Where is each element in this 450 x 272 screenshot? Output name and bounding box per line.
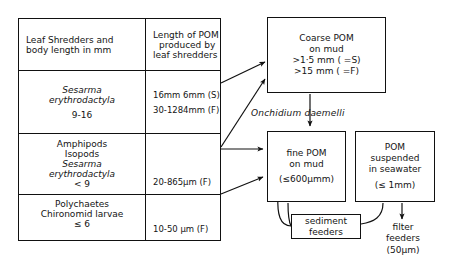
organism-name-line: Sesarma xyxy=(23,159,141,169)
leaf-shredder-table: Leaf Shredders and body length in mm Len… xyxy=(18,18,221,241)
suspended-pom-threshold: (≤ 1mm) xyxy=(375,180,416,191)
table-cell-pom-size: 10-50 µm (F) xyxy=(146,195,220,240)
fine-pom-line-2: on mud xyxy=(289,159,323,170)
table-cell-organisms: Sesarma erythrodactyla 9-16 xyxy=(19,71,146,133)
arrow-polychaetes-to-fine-pom xyxy=(221,177,263,194)
filter-feeders-mesh-size: (50µm) xyxy=(375,245,431,256)
arrow-sesarma-to-coarse-pom xyxy=(221,62,265,83)
table-row: Sesarma erythrodactyla 9-16 16mm 6mm (S)… xyxy=(19,71,220,134)
coarse-pom-threshold-f: >15 mm ( =F) xyxy=(294,66,359,77)
organism-name-line: Amphipods xyxy=(23,139,141,149)
organism-name-line: Isopods xyxy=(23,149,141,159)
pom-size-line: 30-1284mm (F) xyxy=(153,105,220,115)
coarse-pom-line-2: on mud xyxy=(309,44,343,55)
filter-feeders-line-2: feeders xyxy=(375,233,431,244)
table-cell-organisms: Polychaetes Chironomid larvae ≤ 6 xyxy=(19,195,146,240)
sediment-feeders-box: sediment feeders xyxy=(291,214,361,239)
coarse-pom-line-1: Coarse POM xyxy=(299,33,353,44)
table-row: Amphipods Isopods Sesarma erythrodactyla… xyxy=(19,134,220,195)
table-header-pom-line-2: produced by xyxy=(153,40,220,50)
fine-pom-line-1: fine POM xyxy=(286,148,326,159)
organism-name-line: erythrodactyla xyxy=(23,95,141,105)
organism-name-line: Sesarma xyxy=(23,85,141,95)
table-cell-pom-size: 16mm 6mm (S) 30-1284mm (F) xyxy=(146,71,220,133)
sediment-feeders-line-1: sediment xyxy=(305,216,347,227)
table-cell-organisms: Amphipods Isopods Sesarma erythrodactyla… xyxy=(19,134,146,194)
pom-size-line: 16mm 6mm (S) xyxy=(153,90,220,100)
table-header-pom-line-1: Length of POM xyxy=(153,30,220,40)
organism-name-line: erythrodactyla xyxy=(23,169,141,179)
fine-pom-box: fine POM on mud (≤600µmm) xyxy=(267,131,346,202)
suspended-pom-line-3: in seawater xyxy=(369,164,421,175)
onchidium-daemelli-label: Onchidium daemelli xyxy=(251,108,345,119)
organism-size-line: < 9 xyxy=(23,179,141,189)
coarse-pom-threshold-s: >1·5 mm ( =S) xyxy=(292,55,360,66)
curve-suspended-pom-to-sediment-feeders xyxy=(361,203,383,224)
pom-size-line: 10-50 µm (F) xyxy=(153,224,220,234)
organism-name-line: Polychaetes xyxy=(23,199,141,209)
pom-size-line: 20-865µm (F) xyxy=(153,177,220,187)
diagram-canvas: Leaf Shredders and body length in mm Len… xyxy=(0,0,450,272)
table-header-pom-line-3: leaf shredders xyxy=(153,50,220,60)
table-header-cell-pom: Length of POM produced by leaf shredders xyxy=(146,19,220,70)
table-header-organisms-line-1: Leaf Shredders and xyxy=(26,35,114,45)
suspended-pom-line-2: suspended xyxy=(371,153,420,164)
filter-feeders-label: filter feeders (50µm) xyxy=(375,222,431,256)
sediment-feeders-line-2: feeders xyxy=(309,227,343,238)
organism-size-line: ≤ 6 xyxy=(23,219,141,229)
suspended-pom-box: POM suspended in seawater (≤ 1mm) xyxy=(355,131,435,202)
table-row: Polychaetes Chironomid larvae ≤ 6 10-50 … xyxy=(19,195,220,240)
table-header-organisms-line-2: body length in mm xyxy=(26,45,111,55)
filter-feeders-line-1: filter xyxy=(375,222,431,233)
table-header-row: Leaf Shredders and body length in mm Len… xyxy=(19,19,220,71)
organism-size-line: 9-16 xyxy=(23,110,141,120)
coarse-pom-box: Coarse POM on mud >1·5 mm ( =S) >15 mm (… xyxy=(267,17,386,93)
suspended-pom-line-1: POM xyxy=(385,142,405,153)
organism-name-line: Chironomid larvae xyxy=(23,209,141,219)
table-header-cell-organisms: Leaf Shredders and body length in mm xyxy=(19,19,146,70)
table-cell-pom-size: 20-865µm (F) xyxy=(146,134,220,194)
fine-pom-threshold: (≤600µmm) xyxy=(279,174,334,185)
